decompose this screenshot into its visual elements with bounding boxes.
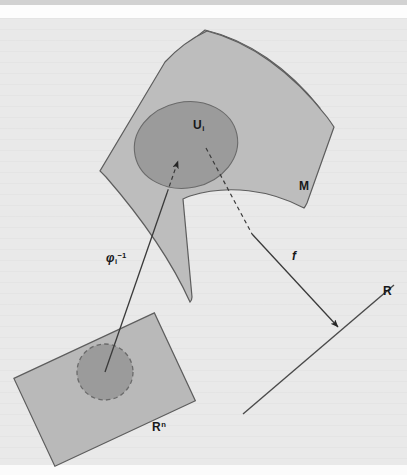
function-arrow-solid-segment <box>252 234 338 327</box>
real-line-R <box>243 285 394 414</box>
label-U-subscript: i <box>202 124 204 133</box>
label-real-line-R: R <box>383 285 392 297</box>
label-U-base: U <box>193 118 202 132</box>
label-euclidean-space-Rn: Rn <box>152 421 166 433</box>
label-chart-inverse-phi: φi−1 <box>106 252 126 265</box>
label-Rn-base: R <box>152 420 161 434</box>
label-Rn-superscript: n <box>161 420 166 429</box>
label-neighborhood-Ui: Ui <box>193 119 204 132</box>
label-phi-base: φ <box>106 251 114 265</box>
label-function-f: f <box>292 250 296 262</box>
label-phi-subscript: i <box>115 257 117 266</box>
diagram-canvas <box>0 0 407 475</box>
manifold-diagram-figure: Ui M f R Rn φi−1 <box>0 0 407 475</box>
label-phi-superscript: −1 <box>118 251 127 260</box>
label-manifold-M: M <box>299 180 309 192</box>
